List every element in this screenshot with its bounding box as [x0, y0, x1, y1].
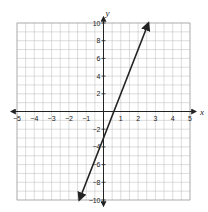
x-axis-label: x — [199, 107, 204, 117]
x-tick-label: 4 — [171, 115, 175, 122]
x-tick-label: 3 — [153, 115, 157, 122]
x-tick-label: −3 — [48, 115, 56, 122]
coordinate-plane: −5−4−3−2−112345108642−2−4−6−8−10xy — [0, 0, 208, 212]
y-axis-label: y — [105, 8, 110, 18]
y-tick-label: 6 — [97, 55, 101, 62]
y-tick-label: 2 — [97, 90, 101, 97]
x-tick-label: −1 — [82, 115, 90, 122]
y-tick-label: −10 — [89, 197, 101, 204]
y-tick-label: −8 — [93, 179, 101, 186]
y-tick-label: 4 — [97, 73, 101, 80]
x-tick-label: −5 — [13, 115, 21, 122]
y-tick-label: 10 — [93, 20, 101, 27]
x-tick-label: 1 — [119, 115, 123, 122]
x-tick-label: −4 — [30, 115, 38, 122]
y-tick-label: 8 — [97, 37, 101, 44]
x-tick-label: −2 — [65, 115, 73, 122]
x-tick-label: 5 — [188, 115, 192, 122]
y-tick-label: −2 — [93, 126, 101, 133]
x-tick-label: 2 — [136, 115, 140, 122]
